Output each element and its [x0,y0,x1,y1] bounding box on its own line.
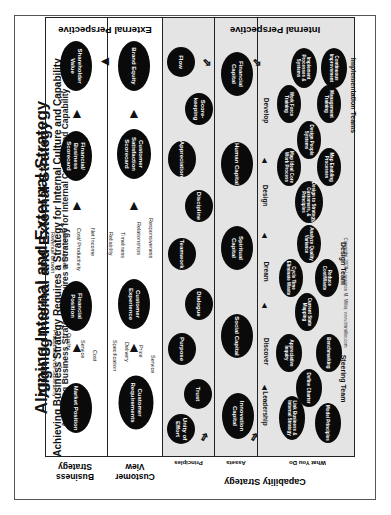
copyright-text: Copyright, 2008, Lawrence M. Miller, www… [343,237,348,347]
step-appreciative-inquiry: Appreciative Inquiry [276,334,302,372]
node-shareholder-value: Shareholder Value [60,41,92,91]
team-steering: Steering Team [340,355,347,403]
arrow-up-icon: ▲ [260,230,269,241]
step-continuous-improvement: Continuous Improvement [321,48,347,88]
row-label-capability-strategy: Capability Strategy [205,477,325,487]
step-cycle-time: Cycle Time Eliminate Waste [279,259,303,297]
step-current-state-mapping: Current State Mapping [295,293,319,331]
driver-cost: Cost [92,350,98,361]
asset-human-capital: Human Capital [221,142,253,186]
step-benchmarking: Benchmarking [316,334,342,372]
step-work-force-training: Work Force Training [277,85,301,123]
step-model-principles: Model Principles [315,403,341,443]
driver-revenue-growth: Revenue Growth [50,232,56,273]
driver-reliability: Reliability [108,232,114,256]
driver-quality: Quality [66,333,72,350]
row-label-principles: Principles [166,460,211,466]
arrow-up-icon: ▲ [260,155,269,166]
stage-leadership: Leadership [262,391,269,426]
stage-develop: Develop [263,98,270,123]
driver-cost-productivity: Cost/ Productivity [76,228,82,271]
arrow-up-icon: ▲ [260,382,269,393]
principle-score-keeping: Score-keeping [185,93,213,125]
driver-price: Price [138,345,144,358]
driver-timeliness: Timeliness [120,232,126,258]
team-implementation: Implementation Teams [350,58,357,133]
asset-spiritual-capital: Spiritual Capital [221,226,253,270]
row-label-business-strategy: Business Strategy [50,462,100,482]
principle-appreciation: Appreciation [168,141,196,177]
driver-service: Service [80,340,86,358]
arrow-up-icon: ▲ [70,200,84,211]
step-design-people-systems: Design People Systems [297,121,321,159]
step-map-ideal-core-work-process: Map Ideal Core Work Process [277,148,301,186]
row-divider [162,17,163,457]
node-customer-experience: Customer Experience [118,279,150,329]
step-map-enabling-processes: Map Enabling Processes [317,148,341,186]
principle-dialogue: Dialogue [185,288,213,320]
arrow-up-icon: ▲ [127,200,141,211]
node-brand-equity: Brand Equity [118,41,150,91]
stage-discover: Discover [263,338,270,365]
driver-return-on-assets: Return on Assets [62,228,68,270]
arrow-up-icon: ▲ [260,300,269,311]
asset-financial-capital: Financial Capital [221,52,253,96]
step-management-training: Management Training [317,85,341,123]
principle-discipline: Discipline [185,190,213,222]
step-define-charter: Define Charter [296,369,322,407]
node-market-position: Market Position [60,383,92,433]
node-customer-requirements: Customer Requirements [119,376,154,430]
driver-relationships: Relationships [136,222,142,255]
node-financial-business-scorecard: Financial/ Business Scorecard [60,131,92,181]
stage-design: Design [262,185,269,207]
node-customer-satisfaction-scorecard: Customer Satisfaction Scorecard [117,129,151,179]
driver-delivery: Delivery [124,342,130,362]
step-design-to-strategy: Design to Strategy, Customers, & Princip… [295,181,323,223]
arrow-up-icon: ▲ [70,108,84,119]
internal-perspective-label: Internal Perspective [205,25,345,36]
driver-net-income: Net Income [90,228,96,256]
row-label-customer-view: Customer View [110,462,160,482]
row-divider [257,17,258,457]
step-analyze-quality-variance: Analyze Quality Variance [297,225,321,263]
driver-service: Service [150,355,156,373]
asset-social-capital: Social Capital [221,314,253,358]
row-label-assets: Assets [218,460,254,466]
external-perspective-label: External Perspective [55,25,155,36]
step-reduce-cost-waste: Reduce Cost/Waste [315,259,339,297]
row-label-what-you-do: What You Do [265,460,350,466]
driver-product-service: Product/Service Superiority [52,330,58,397]
driver-responsiveness: Responsiveness [148,218,154,258]
principle-flow: Flow [167,47,195,77]
principle-trust: Trust [184,379,212,409]
principle-purpose: Purpose [168,333,196,365]
row-divider [214,17,215,457]
node-financial-position: Financial Position [60,281,92,331]
stage-dream: Dream [263,261,270,281]
arrow-up-icon: ▲ [127,108,141,119]
principle-teamwork: Teamwork [168,238,196,270]
diagram-body: Aligning Internal and External Strategy … [0,0,391,515]
step-implement-processes-systems: Implement Processes & Systems [291,48,317,88]
driver-specification: Specification [112,340,118,371]
arrow-left-icon: ▲ [99,55,110,69]
principle-unity-of-effort: Unity of Effort [167,414,195,444]
